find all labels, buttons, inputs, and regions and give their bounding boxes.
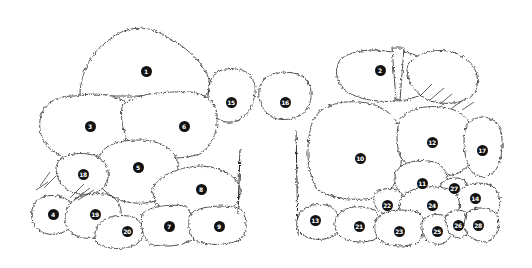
plant-1-outline [80, 28, 209, 96]
plant-marker-15[interactable]: 15 [226, 97, 237, 108]
plant-marker-1[interactable]: 1 [141, 66, 152, 77]
plant-marker-4[interactable]: 4 [48, 209, 59, 220]
garden-plan-drawing [0, 0, 532, 268]
plant-marker-11[interactable]: 11 [417, 178, 428, 189]
plant-marker-17[interactable]: 17 [477, 145, 488, 156]
plant-marker-18[interactable]: 18 [78, 169, 89, 180]
plant-marker-2[interactable]: 2 [375, 65, 386, 76]
plant-marker-10[interactable]: 10 [355, 153, 366, 164]
plant-marker-22[interactable]: 22 [382, 200, 393, 211]
plant-16-outline [259, 72, 311, 119]
plant-marker-14[interactable]: 14 [470, 193, 481, 204]
plant-marker-13[interactable]: 13 [310, 215, 321, 226]
plant-marker-8[interactable]: 8 [196, 184, 207, 195]
plant-marker-20[interactable]: 20 [122, 226, 133, 237]
plant-marker-28[interactable]: 28 [473, 220, 484, 231]
plant-marker-7[interactable]: 7 [164, 221, 175, 232]
plant-marker-12[interactable]: 12 [427, 137, 438, 148]
plant-marker-9[interactable]: 9 [214, 221, 225, 232]
plant-marker-21[interactable]: 21 [354, 221, 365, 232]
plant-marker-16[interactable]: 16 [280, 97, 291, 108]
plant-marker-5[interactable]: 5 [133, 162, 144, 173]
plant-marker-26[interactable]: 26 [453, 220, 464, 231]
plant-marker-23[interactable]: 23 [394, 226, 405, 237]
plant-marker-25[interactable]: 25 [432, 226, 443, 237]
plant-marker-6[interactable]: 6 [179, 121, 190, 132]
plant-marker-3[interactable]: 3 [85, 121, 96, 132]
plant-marker-19[interactable]: 19 [90, 209, 101, 220]
plant-10-outline [308, 102, 402, 200]
plant-marker-24[interactable]: 24 [427, 200, 438, 211]
plant-marker-27[interactable]: 27 [449, 183, 460, 194]
vine-pole [238, 150, 240, 214]
